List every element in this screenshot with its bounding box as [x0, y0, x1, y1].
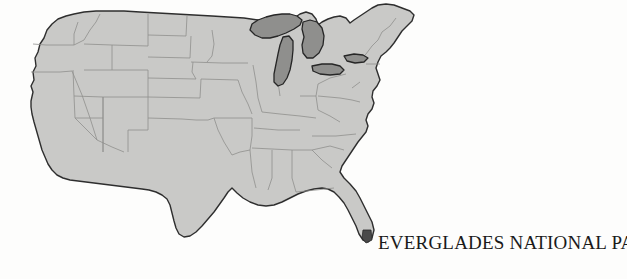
park-marker-layer	[362, 230, 372, 243]
us-map-figure: EVERGLADES NATIONAL PARK	[0, 0, 627, 279]
lake-ontario	[344, 54, 368, 63]
figure-page: EVERGLADES NATIONAL PARK	[0, 0, 627, 279]
us-landmass	[31, 4, 414, 242]
map-caption: EVERGLADES NATIONAL PARK	[378, 230, 624, 256]
everglades-marker-icon	[362, 230, 372, 243]
map-land-layer	[31, 4, 414, 242]
